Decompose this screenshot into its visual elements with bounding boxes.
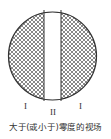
- label-region-right: I: [79, 101, 82, 111]
- field-of-view-diagram: [0, 0, 111, 139]
- figure-caption: 大于(或小于)零度的视场: [0, 120, 111, 132]
- left-hatched-region: [0, 0, 44, 139]
- right-hatched-region: [61, 0, 111, 139]
- center-bright-strip: [44, 0, 61, 139]
- label-region-center: II: [50, 107, 56, 117]
- label-region-left: I: [24, 101, 27, 111]
